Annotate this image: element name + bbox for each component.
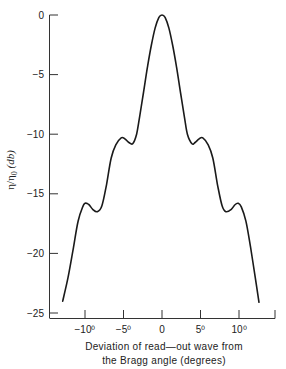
x-tick-label: 5⁰ xyxy=(196,324,206,335)
efficiency-curve xyxy=(63,15,259,302)
x-axis-label-line-1: Deviation of read—out wave from xyxy=(85,341,243,352)
y-tick-label: −10 xyxy=(27,129,44,140)
y-tick-label: −25 xyxy=(27,308,44,319)
x-tick-label: −5⁰ xyxy=(116,324,131,335)
x-tick-label: 0 xyxy=(159,324,165,335)
y-ticks: 0−5−10−15−20−25 xyxy=(27,10,58,319)
axes xyxy=(50,15,276,319)
y-tick-label: −5 xyxy=(33,69,45,80)
y-axis-label: η/η0 (db) xyxy=(4,150,19,190)
x-tick-label: −10⁰ xyxy=(75,324,96,335)
y-tick-label: −20 xyxy=(27,248,44,259)
x-axis-label-line-2: the Bragg angle (degrees) xyxy=(102,355,226,366)
x-ticks: −10⁰−5⁰05⁰10⁰ xyxy=(75,310,275,335)
y-tick-label: 0 xyxy=(38,10,44,21)
y-tick-label: −15 xyxy=(27,188,44,199)
y-label-unit: (db) xyxy=(4,150,17,171)
chart: 0−5−10−15−20−25 −10⁰−5⁰05⁰10⁰ η/η0 (db) … xyxy=(0,0,286,369)
x-tick-label: 10⁰ xyxy=(231,324,246,335)
y-label-main: η/η xyxy=(4,175,16,190)
